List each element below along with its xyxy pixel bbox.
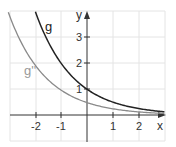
x-tick-label: -1 (56, 120, 66, 132)
y-tick-label: 3 (76, 31, 82, 43)
x-axis (10, 112, 166, 118)
x-tick-label: 2 (136, 120, 142, 132)
y-axis-label: y (76, 8, 82, 22)
function-graph: -2 -1 1 2 x 3 2 1 y g g'' (0, 0, 176, 147)
x-tick-label: -2 (31, 120, 41, 132)
y-tick-label: 2 (76, 57, 82, 69)
y-axis (84, 11, 90, 142)
curve-g-label: g (45, 19, 52, 34)
x-tick-label: 1 (110, 120, 116, 132)
x-tick-labels: -2 -1 1 2 x (31, 119, 163, 133)
curve-g (35, 12, 164, 112)
y-axis-arrow-icon (84, 11, 90, 19)
x-axis-label: x (157, 119, 163, 133)
curve-g-second-derivative-label: g'' (24, 63, 36, 78)
